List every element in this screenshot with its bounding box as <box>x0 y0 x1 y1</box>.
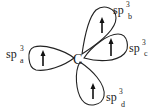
center-atom-label: C <box>73 52 82 67</box>
orbital-label-c: sp 3 c <box>129 38 148 58</box>
svg-text:b: b <box>128 12 132 21</box>
orbital-label-a: sp 3 a <box>6 44 24 65</box>
svg-text:a: a <box>20 56 24 65</box>
orbital-lobe-a <box>29 46 74 70</box>
svg-text:3: 3 <box>142 38 146 47</box>
svg-text:sp: sp <box>6 47 17 61</box>
svg-text:sp: sp <box>106 90 117 104</box>
svg-text:sp: sp <box>113 3 124 17</box>
svg-text:3: 3 <box>126 0 130 9</box>
svg-text:3: 3 <box>20 44 24 53</box>
svg-text:c: c <box>144 49 148 58</box>
orbital-label-d: sp 3 d <box>106 87 125 109</box>
orbital-lobe-d <box>76 62 104 105</box>
svg-text:3: 3 <box>119 87 123 96</box>
svg-text:sp: sp <box>129 41 140 55</box>
sp3-hybrid-orbital-diagram: C sp 3 a sp 3 b sp 3 c sp 3 d <box>0 0 162 111</box>
svg-text:d: d <box>121 100 125 109</box>
